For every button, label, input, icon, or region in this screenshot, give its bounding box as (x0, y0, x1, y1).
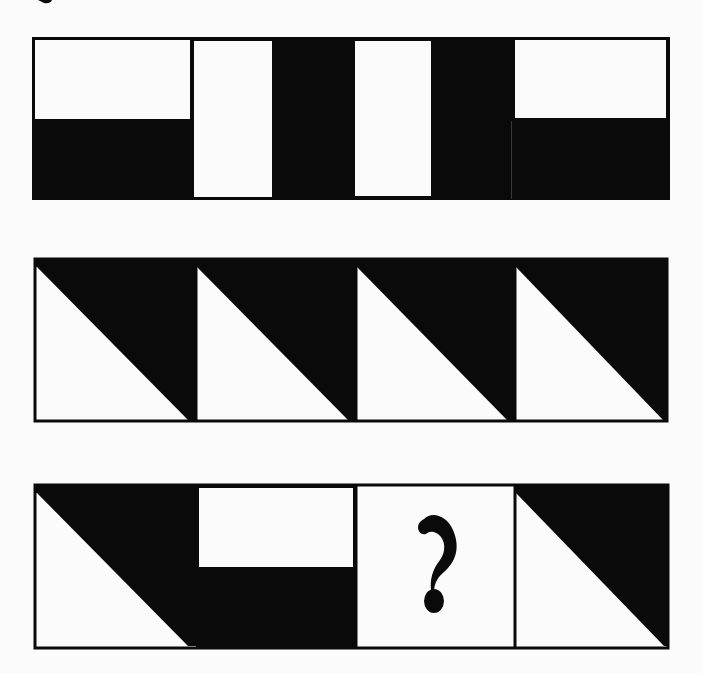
row-2 (35, 259, 667, 421)
scan-artifact (38, 0, 52, 3)
panel-1-6-white-top (515, 40, 666, 118)
row-3 (35, 485, 668, 648)
panel-1-2-white-column (194, 41, 272, 197)
panel-3-2-white-top (199, 488, 353, 567)
row-1 (32, 37, 670, 200)
panel-1-4-white-column (355, 41, 431, 196)
panel-1-1-white-top (35, 40, 190, 119)
puzzle-canvas (0, 0, 702, 673)
